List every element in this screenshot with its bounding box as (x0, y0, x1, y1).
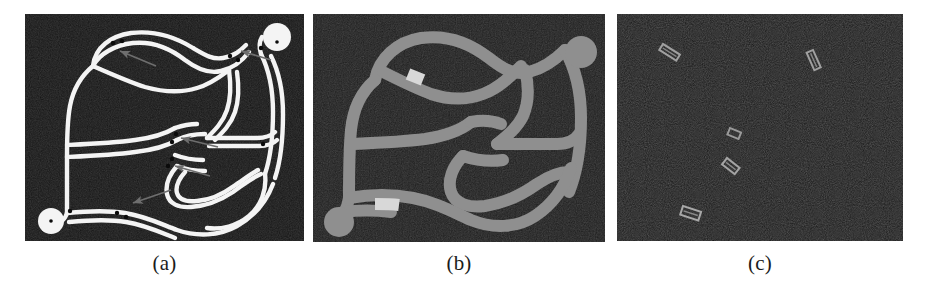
figure-panel-a (25, 14, 304, 241)
panel-b-caption: (b) (313, 253, 605, 274)
panel-c-caption: (c) (617, 253, 903, 274)
figure-panel-b (313, 14, 605, 242)
panel-a-graphic (25, 14, 304, 241)
panel-b-graphic (313, 14, 605, 242)
panel-c-graphic (617, 14, 903, 241)
panel-a-terminal-node-right (263, 23, 291, 51)
panel-c-image (617, 14, 903, 241)
figure-panel-c (617, 14, 903, 241)
figure-row: (a) (0, 0, 929, 302)
panel-a-terminal-node-left (38, 208, 64, 234)
panel-a-caption: (a) (25, 253, 304, 274)
panel-a-image (25, 14, 304, 241)
panel-b-image (313, 14, 605, 242)
